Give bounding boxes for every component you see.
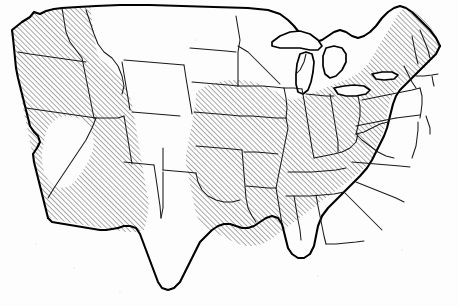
us-map-svg <box>0 0 458 306</box>
lake-erie <box>334 85 370 96</box>
lake-ontario <box>372 72 398 80</box>
distribution-map-figure: Outline map of the contiguous United Sta… <box>0 0 458 306</box>
